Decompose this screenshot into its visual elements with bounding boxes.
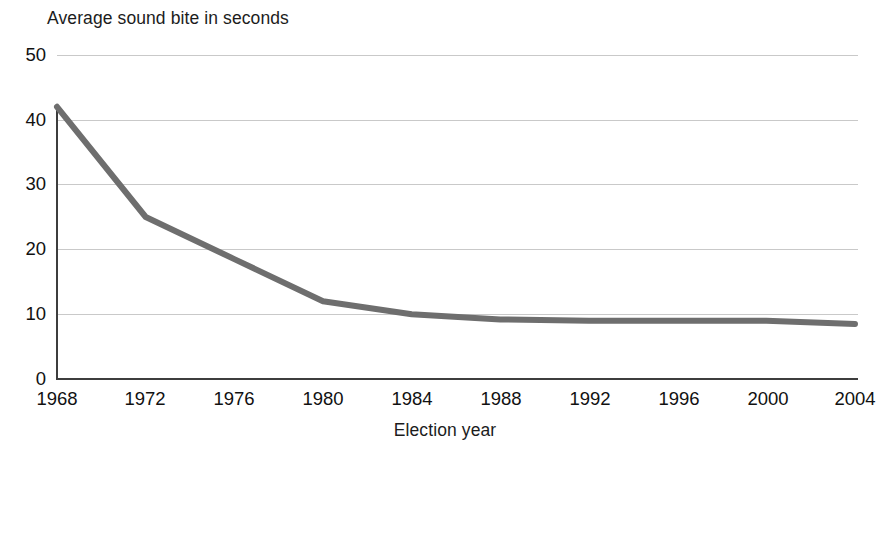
x-tick-label-1984: 1984 xyxy=(391,390,432,409)
figure-container: Average sound bite in seconds 50 40 30 2… xyxy=(0,0,890,555)
x-tick-label-2004: 2004 xyxy=(834,390,875,409)
figure-caption-row: FIGURE 10-2 The Shrinking Sound Bite of … xyxy=(0,466,890,526)
x-tick-label-1976: 1976 xyxy=(213,390,254,409)
x-axis-title: Election year xyxy=(0,420,890,441)
chart-area: Average sound bite in seconds 50 40 30 2… xyxy=(0,0,890,455)
x-tick-label-1988: 1988 xyxy=(480,390,521,409)
x-tick-label-1972: 1972 xyxy=(124,390,165,409)
sound-bite-trend-line xyxy=(57,107,855,324)
x-tick-label-1992: 1992 xyxy=(569,390,610,409)
x-tick-label-2000: 2000 xyxy=(747,390,788,409)
plot-svg xyxy=(0,0,890,455)
x-tick-label-1996: 1996 xyxy=(658,390,699,409)
x-tick-label-1980: 1980 xyxy=(302,390,343,409)
x-tick-label-1968: 1968 xyxy=(36,390,77,409)
